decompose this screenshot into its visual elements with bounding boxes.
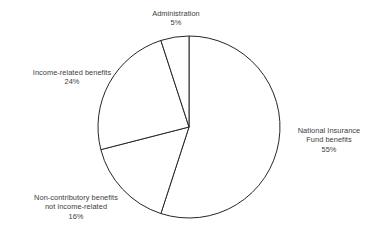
pie-label-non-contributory: Non-contributory benefits not income-rel…: [14, 193, 138, 221]
pie-label-national-insurance-fund-line2: Fund benefits: [282, 135, 376, 144]
pie-label-administration-text: Administration: [124, 9, 228, 18]
pie-label-non-contributory-percent: 16%: [14, 212, 138, 221]
pie-label-national-insurance-fund-line1: National Insurance: [282, 126, 376, 135]
pie-label-non-contributory-line1: Non-contributory benefits: [14, 193, 138, 202]
pie-label-national-insurance-fund-percent: 55%: [282, 145, 376, 154]
pie-label-administration-percent: 5%: [124, 18, 228, 27]
pie-chart: Administration 5% Income-related benefit…: [0, 0, 377, 245]
pie-label-non-contributory-line2: not income-related: [14, 202, 138, 211]
pie-label-administration: Administration 5%: [124, 9, 228, 28]
pie-label-income-related-text: Income-related benefits: [12, 68, 132, 77]
pie-slices-group: [98, 36, 280, 218]
pie-label-income-related-percent: 24%: [12, 77, 132, 86]
pie-label-national-insurance-fund: National Insurance Fund benefits 55%: [282, 126, 376, 154]
pie-label-income-related: Income-related benefits 24%: [12, 68, 132, 87]
